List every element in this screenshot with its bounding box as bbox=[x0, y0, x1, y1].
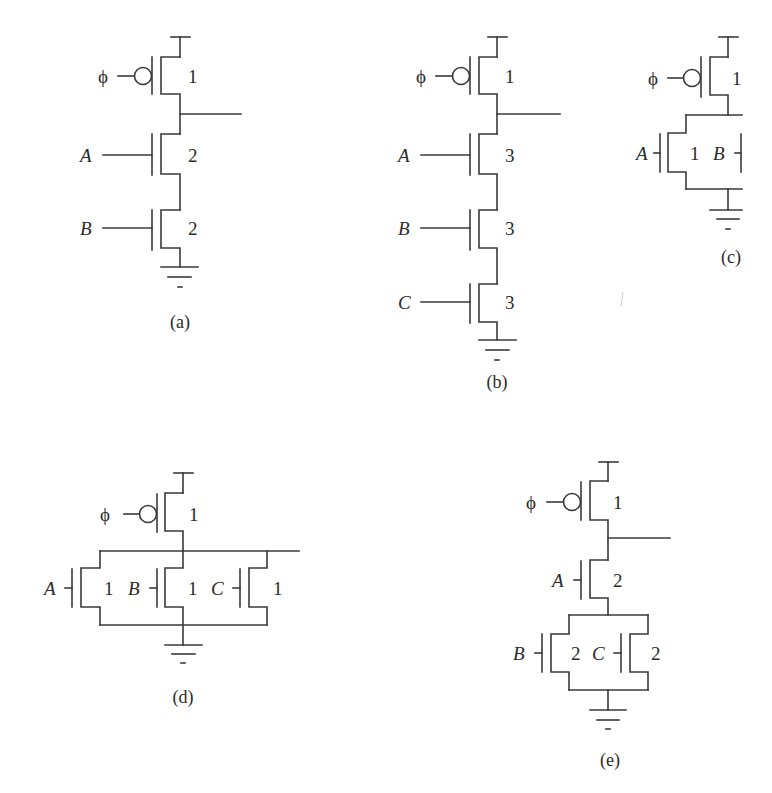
ground-icon bbox=[590, 710, 626, 729]
input-label-b: B bbox=[80, 218, 92, 239]
input-label-a: A bbox=[396, 145, 410, 166]
size-label: 1 bbox=[273, 578, 283, 599]
input-label-b: B bbox=[513, 643, 525, 664]
input-label-a: A bbox=[550, 570, 564, 591]
size-label: 2 bbox=[613, 570, 623, 591]
input-label-a: A bbox=[42, 578, 56, 599]
nmos-transistor-b bbox=[103, 210, 180, 267]
clock-label: ϕ bbox=[526, 492, 536, 513]
nmos-transistor-a bbox=[421, 134, 497, 210]
ground-icon bbox=[710, 210, 742, 229]
panel-e: ϕ 1 A 2 B 2 C 2 bbox=[513, 462, 670, 771]
nmos-transistor-a bbox=[103, 134, 180, 210]
panel-b: ϕ 1 A 3 B 3 C 3 (b) bbox=[396, 37, 560, 393]
nmos-transistor-b bbox=[150, 551, 183, 645]
ground-icon bbox=[479, 340, 516, 360]
panel-caption: (b) bbox=[487, 372, 508, 393]
clock-label: ϕ bbox=[100, 504, 110, 525]
clock-label: ϕ bbox=[98, 66, 108, 87]
nmos-transistor-b bbox=[421, 210, 497, 284]
nmos-transistor-c bbox=[614, 615, 648, 690]
nmos-transistor-c bbox=[421, 284, 497, 340]
input-label-c: C bbox=[592, 643, 605, 664]
size-label: 3 bbox=[505, 145, 515, 166]
inverter-bubble-icon bbox=[135, 68, 152, 85]
size-label: 3 bbox=[505, 292, 515, 313]
panel-caption: (c) bbox=[721, 247, 741, 268]
circuit-figure: ϕ 1 A 2 B 2 (a) bbox=[0, 0, 772, 793]
pmos-size: 1 bbox=[505, 66, 515, 87]
input-label-b: B bbox=[713, 143, 725, 164]
size-label: 2 bbox=[188, 218, 198, 239]
size-label: 2 bbox=[188, 145, 198, 166]
panel-a: ϕ 1 A 2 B 2 (a) bbox=[78, 37, 241, 333]
inverter-bubble-icon bbox=[564, 494, 581, 511]
pmos-transistor bbox=[668, 57, 728, 115]
pmos-transistor bbox=[436, 57, 497, 134]
size-label: 2 bbox=[571, 643, 581, 664]
input-label-b: B bbox=[128, 578, 140, 599]
nmos-transistor-a bbox=[65, 551, 100, 625]
pmos-size: 1 bbox=[189, 504, 199, 525]
pmos-size: 1 bbox=[613, 492, 623, 513]
pmos-size: 1 bbox=[732, 68, 742, 89]
input-label-c: C bbox=[211, 578, 224, 599]
nmos-transistor-a bbox=[574, 560, 608, 615]
pmos-size: 1 bbox=[188, 66, 198, 87]
size-label: 1 bbox=[188, 578, 198, 599]
panel-caption: (d) bbox=[173, 687, 194, 708]
inverter-bubble-icon bbox=[684, 70, 701, 87]
ground-icon bbox=[161, 267, 198, 287]
size-label: 1 bbox=[104, 578, 114, 599]
size-label: 1 bbox=[690, 143, 700, 164]
size-label: 2 bbox=[651, 643, 661, 664]
inverter-bubble-icon bbox=[453, 68, 470, 85]
nmos-transistor-b bbox=[535, 615, 569, 690]
panel-caption: (a) bbox=[170, 312, 190, 333]
input-label-a: A bbox=[634, 143, 648, 164]
pmos-transistor bbox=[118, 57, 180, 134]
pmos-transistor bbox=[124, 493, 183, 551]
clock-label: ϕ bbox=[648, 68, 658, 89]
size-label: 3 bbox=[505, 218, 515, 239]
panel-caption: (e) bbox=[600, 750, 620, 771]
clock-label: ϕ bbox=[416, 66, 426, 87]
stray-mark bbox=[621, 292, 623, 306]
panel-d: ϕ 1 A 1 B 1 C 1 bbox=[42, 473, 299, 708]
nmos-transistor-a bbox=[654, 115, 686, 189]
panel-c: ϕ 1 A 1 B (c) bbox=[634, 37, 742, 268]
input-label-b: B bbox=[398, 218, 410, 239]
input-label-c: C bbox=[398, 292, 411, 313]
nmos-transistor-b bbox=[735, 134, 741, 172]
inverter-bubble-icon bbox=[140, 506, 157, 523]
pmos-transistor bbox=[547, 481, 608, 560]
ground-icon bbox=[165, 645, 202, 663]
nmos-transistor-c bbox=[233, 551, 267, 625]
input-label-a: A bbox=[78, 145, 92, 166]
